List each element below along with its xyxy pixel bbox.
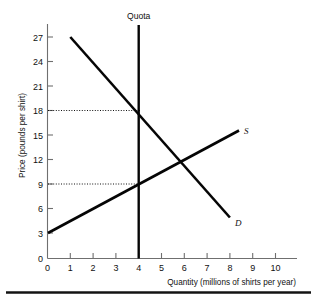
x-tick-label-7: 7 [205, 263, 210, 273]
x-tick-label-10: 10 [270, 263, 280, 273]
quota-label: Quota [127, 11, 151, 21]
y-tick-label-0: 0 [38, 254, 43, 264]
x-tick-label-3: 3 [113, 263, 118, 273]
y-tick-label-24: 24 [33, 57, 43, 67]
chart-figure: 27 24 21 18 15 12 9 6 3 0 0 1 2 3 4 5 6 … [0, 0, 317, 301]
y-tick-label-9: 9 [38, 180, 43, 190]
y-tick-label-6: 6 [38, 204, 43, 214]
x-axis-title: Quantity (millions of shirts per year) [167, 278, 296, 287]
supply-curve-label: S [244, 126, 249, 136]
x-tick-label-9: 9 [250, 263, 255, 273]
demand-curve-label: D [234, 218, 242, 228]
y-axis-title: Price (pounds per shirt) [18, 93, 27, 178]
x-tick-label-6: 6 [182, 263, 187, 273]
x-tick-label-5: 5 [159, 263, 164, 273]
x-tick-label-2: 2 [91, 263, 96, 273]
x-tick-label-0: 0 [45, 263, 50, 273]
y-tick-label-21: 21 [33, 82, 43, 92]
y-tick-label-15: 15 [33, 131, 43, 141]
y-tick-label-3: 3 [38, 229, 43, 239]
supply-demand-quota-chart: 27 24 21 18 15 12 9 6 3 0 0 1 2 3 4 5 6 … [0, 0, 317, 301]
x-tick-label-1: 1 [68, 263, 73, 273]
y-tick-label-27: 27 [33, 33, 43, 43]
x-tick-label-8: 8 [227, 263, 232, 273]
x-tick-label-4: 4 [136, 263, 141, 273]
y-tick-label-12: 12 [33, 155, 43, 165]
y-tick-label-18: 18 [33, 106, 43, 116]
